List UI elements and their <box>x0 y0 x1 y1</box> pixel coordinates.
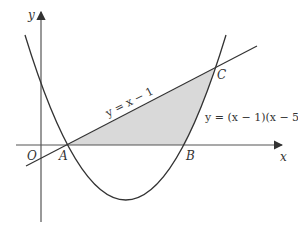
x-axis-label: x <box>280 150 287 164</box>
line-y-equals-x-minus-1 <box>26 46 257 166</box>
diagram-canvas: y x O A B C y = x − 1 y = (x − 1)(x − 5) <box>0 0 298 231</box>
point-c-label: C <box>217 68 226 82</box>
y-axis-label: y <box>27 8 35 22</box>
point-b-label: B <box>185 149 195 163</box>
point-a-label: A <box>58 149 68 163</box>
origin-label: O <box>27 149 37 163</box>
parabola-equation-label: y = (x − 1)(x − 5) <box>204 111 298 124</box>
